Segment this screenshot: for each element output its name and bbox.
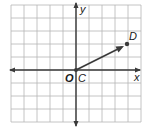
vector-cd <box>76 46 124 70</box>
x-axis-label: x <box>133 71 140 83</box>
point-d <box>125 42 129 46</box>
point-c-label: C <box>78 72 86 84</box>
origin-label: O <box>65 72 74 84</box>
coordinate-plane: y x O C D <box>0 0 146 131</box>
axes <box>9 2 141 127</box>
x-axis-left-arrow-icon <box>9 68 15 73</box>
y-axis-down-arrow-icon <box>74 121 79 127</box>
point-d-label: D <box>129 30 137 42</box>
